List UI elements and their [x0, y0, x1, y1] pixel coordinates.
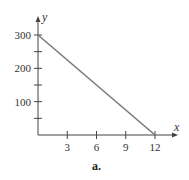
series-line [38, 35, 155, 135]
y-tick-label: 300 [15, 29, 32, 41]
x-tick-label: 6 [94, 141, 100, 153]
y-axis-arrow-icon [36, 16, 41, 22]
y-tick-label: 100 [15, 96, 32, 108]
ticks: 36912100200300 [15, 29, 161, 153]
y-tick-label: 200 [15, 62, 32, 74]
x-tick-label: 9 [123, 141, 129, 153]
y-axis-label: y [41, 10, 48, 24]
x-tick-label: 12 [150, 141, 161, 153]
x-axis-label: x [173, 120, 180, 134]
axes [36, 16, 179, 138]
data-series [38, 35, 155, 135]
line-chart: 36912100200300 x y a. [0, 0, 189, 180]
chart-caption: a. [92, 159, 101, 173]
x-tick-label: 3 [65, 141, 71, 153]
